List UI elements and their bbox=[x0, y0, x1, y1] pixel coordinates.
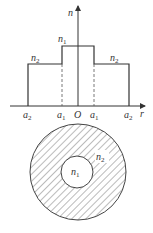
cladding-right-label: n2 bbox=[110, 52, 119, 65]
tick-a2-right: a2 bbox=[124, 109, 133, 122]
r-axis-label: r bbox=[140, 108, 144, 119]
tick-a1-right: a1 bbox=[90, 109, 99, 122]
fiber-diagram: n r n1 n2 n2 a2 a1 O a1 a2 n1 bbox=[0, 0, 153, 233]
cladding-left-label: n2 bbox=[31, 52, 40, 65]
fiber-cross-section: n1 n2 bbox=[30, 124, 126, 220]
tick-a2-left: a2 bbox=[23, 109, 32, 122]
tick-a1-left: a1 bbox=[57, 109, 66, 122]
origin-label: O bbox=[74, 109, 81, 120]
core-index-label: n1 bbox=[58, 33, 67, 46]
n-axis-label: n bbox=[68, 7, 73, 18]
index-profile: n r n1 n2 n2 a2 a1 O a1 a2 bbox=[10, 6, 145, 122]
